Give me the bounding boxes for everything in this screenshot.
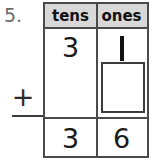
sum-ones-digit: 6 [96, 122, 147, 156]
column-header-ones: ones [96, 4, 147, 29]
digit-one-stroke [120, 36, 124, 61]
worksheet-problem: 5. + tens ones 3 1 3 6 [0, 0, 155, 166]
sum-rule-left [12, 115, 46, 117]
plus-operator-icon: + [11, 84, 35, 110]
sum-tens-digit: 3 [45, 122, 96, 156]
sum-rule-table [45, 117, 147, 119]
addend-ones-digit: 1 [96, 31, 147, 65]
column-header-tens: tens [45, 4, 96, 29]
addend-tens-digit: 3 [45, 31, 96, 65]
place-value-table: tens ones 3 1 3 6 [43, 2, 149, 158]
empty-answer-box[interactable] [101, 62, 145, 113]
problem-number: 5. [4, 2, 36, 28]
